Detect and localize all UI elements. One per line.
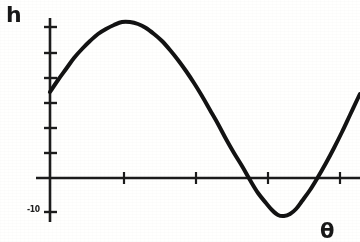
x-axis-label: θ (320, 221, 334, 242)
graph-figure: h θ -10 (0, 0, 360, 242)
sinusoid-plot (0, 0, 360, 242)
curve-h-theta (50, 22, 360, 216)
y-axis-label: h (6, 4, 22, 26)
y-axis-min-tick-label: -10 (27, 205, 40, 214)
